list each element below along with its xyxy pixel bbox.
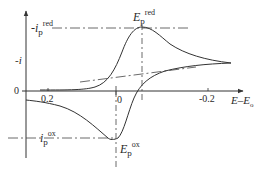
x-tick-label-0: 0 (117, 95, 122, 105)
y-zero-label: 0 (14, 86, 19, 96)
y-axis-label: -i (15, 55, 22, 66)
x-tick-label-minus-0.2: -0.2 (199, 94, 215, 104)
reduction-sweep-curve (40, 27, 231, 90)
x-axis-label: E–Eo (231, 95, 253, 106)
x-tick-label-0.2: 0.2 (41, 94, 54, 104)
ip-red-label: -ipred (31, 22, 53, 34)
baseline-extrapolation-line (80, 67, 196, 82)
Ep-ox-label: Epox (120, 143, 140, 155)
ip-ox-label: ipox (40, 132, 56, 144)
Ep-red-label: Epred (133, 11, 155, 23)
